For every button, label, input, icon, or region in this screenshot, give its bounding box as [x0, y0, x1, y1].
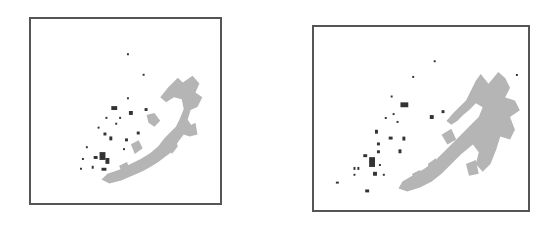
left-cluster-plot [31, 19, 220, 203]
left-cluster-map [29, 17, 222, 205]
right-cluster-plot [314, 27, 528, 210]
gray-cluster [102, 76, 203, 184]
right-cluster-map [312, 25, 530, 212]
dark-points [80, 53, 148, 170]
gray-cluster [398, 72, 519, 191]
